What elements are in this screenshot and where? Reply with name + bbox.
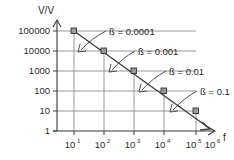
- x-tick-base-1e3: 10: [125, 139, 136, 150]
- chart-background: [0, 0, 234, 160]
- annotation-label-beta-0.001: ß = 0.001: [138, 46, 178, 57]
- data-point-1e3-1000[interactable]: [131, 68, 137, 74]
- x-tick-base-1e1: 10: [65, 139, 76, 150]
- data-point-1e4-100[interactable]: [161, 88, 167, 94]
- x-axis-title: f: [223, 132, 226, 143]
- annotation-label-beta-0.0001: ß = 0.0001: [109, 26, 155, 37]
- annotation-label-beta-0.01: ß = 0.01: [169, 66, 204, 77]
- x-tick-base-1e6: 10: [205, 139, 216, 150]
- gain-bandwidth-log-log-chart: V/V f 100000 10000 1000 100 10 1 10 1 10…: [0, 0, 234, 160]
- data-point-1e2-10000[interactable]: [101, 48, 107, 54]
- y-axis-title: V/V: [38, 5, 54, 16]
- annotation-label-beta-0.1: ß = 0.1: [200, 86, 230, 97]
- x-tick-base-1e5: 10: [186, 139, 197, 150]
- y-tick-label-1: 1: [45, 125, 50, 136]
- y-tick-label-100: 100: [34, 85, 50, 96]
- y-tick-label-10000: 10000: [24, 45, 50, 56]
- data-point-1e5-10[interactable]: [193, 108, 199, 114]
- y-tick-label-10: 10: [39, 105, 50, 116]
- y-tick-label-1000: 1000: [29, 65, 50, 76]
- y-tick-label-100000: 100000: [18, 25, 50, 36]
- x-tick-base-1e4: 10: [155, 139, 166, 150]
- x-tick-base-1e2: 10: [95, 139, 106, 150]
- data-point-1e1-100000[interactable]: [71, 28, 77, 34]
- chart-container: V/V f 100000 10000 1000 100 10 1 10 1 10…: [0, 0, 234, 160]
